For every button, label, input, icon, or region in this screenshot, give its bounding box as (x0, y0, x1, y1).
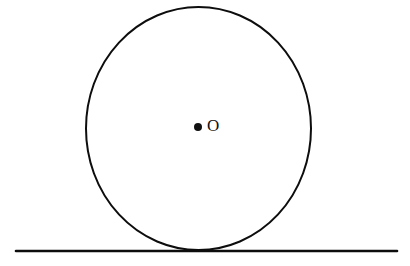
geometry-figure-canvas: O (0, 0, 410, 266)
geometry-diagram: O (0, 0, 410, 266)
center-point-label: O (207, 116, 219, 135)
center-point-dot (194, 123, 202, 131)
